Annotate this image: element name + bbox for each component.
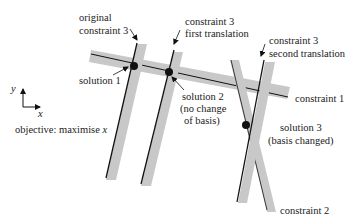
- label-solution-3-line2: (basis changed): [268, 135, 334, 147]
- axes-icon: [23, 89, 40, 107]
- arrow-original-c3: [130, 29, 137, 40]
- label-constraint-1: constraint 1: [295, 93, 344, 104]
- label-constraint-2: constraint 2: [280, 205, 329, 216]
- label-solution-1: solution 1: [79, 75, 121, 86]
- label-c3-first-line1: constraint 3: [185, 16, 234, 27]
- solution-1-point: [130, 62, 138, 70]
- label-solution-3-line1: solution 3: [280, 122, 322, 133]
- label-solution-2-line3: of basis): [184, 115, 220, 127]
- label-solution-2-line2: (no change: [180, 103, 227, 115]
- arrow-c3-second: [261, 44, 265, 56]
- label-c3-first-line2: first translation: [185, 28, 250, 39]
- label-original-line1: original: [79, 12, 112, 23]
- arrow-solution-1: [113, 67, 128, 75]
- arrow-c3-first: [174, 30, 180, 44]
- solution-2-point: [165, 68, 173, 76]
- solution-3-point: [242, 121, 250, 129]
- axis-x-label: x: [37, 108, 43, 119]
- objective-label: objective: maximise x: [15, 124, 107, 135]
- lp-basis-diagram: original constraint 3 constraint 3 first…: [0, 0, 353, 223]
- label-c3-second-line2: second translation: [269, 48, 346, 59]
- label-c3-second-line1: constraint 3: [269, 35, 318, 46]
- label-solution-2-line1: solution 2: [182, 91, 224, 102]
- axis-y-label: y: [10, 83, 16, 94]
- label-original-line2: constraint 3: [79, 25, 128, 36]
